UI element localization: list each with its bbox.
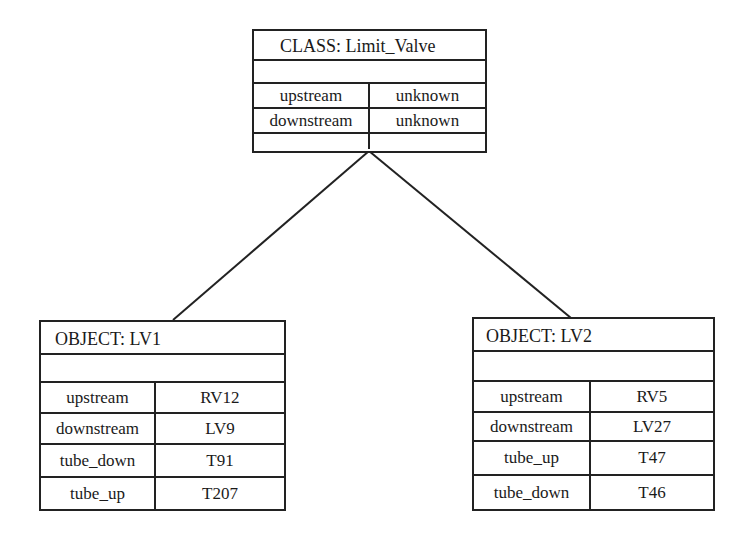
- object-title: OBJECT: LV1: [41, 322, 284, 355]
- slot-name: tube_down: [41, 444, 155, 477]
- slot-name: tube_down: [474, 475, 590, 509]
- slot-value: unknown: [369, 108, 485, 133]
- slot-name: upstream: [41, 383, 155, 413]
- object-slots-table: upstream RV12 downstream LV9 tube_down T…: [41, 383, 284, 509]
- object-title: OBJECT: LV2: [474, 319, 713, 352]
- slot-value: T91: [155, 444, 284, 477]
- link-class-to-lv2: [369, 151, 571, 318]
- slot-name: tube_up: [41, 477, 155, 509]
- table-row: upstream unknown: [254, 84, 485, 108]
- table-row: [254, 133, 485, 149]
- slot-value: T207: [155, 477, 284, 509]
- object-slots-table: upstream RV5 downstream LV27 tube_up T47…: [474, 382, 713, 509]
- slot-value: T47: [590, 441, 713, 475]
- slot-name: [254, 133, 369, 149]
- table-row: tube_up T47: [474, 441, 713, 475]
- slot-name: upstream: [474, 382, 590, 412]
- object-box-lv2: OBJECT: LV2 upstream RV5 downstream LV27…: [472, 317, 715, 511]
- table-row: upstream RV12: [41, 383, 284, 413]
- class-box-limit-valve: CLASS: Limit_Valve upstream unknown down…: [252, 29, 487, 153]
- slot-name: tube_up: [474, 441, 590, 475]
- slot-value: RV12: [155, 383, 284, 413]
- slot-value: unknown: [369, 84, 485, 108]
- table-row: downstream LV27: [474, 412, 713, 441]
- slot-value: LV27: [590, 412, 713, 441]
- slot-name: downstream: [41, 413, 155, 444]
- table-row: tube_down T91: [41, 444, 284, 477]
- table-row: downstream unknown: [254, 108, 485, 133]
- slot-value: T46: [590, 475, 713, 509]
- object-box-lv1: OBJECT: LV1 upstream RV12 downstream LV9…: [39, 320, 286, 511]
- table-row: tube_up T207: [41, 477, 284, 509]
- class-title: CLASS: Limit_Valve: [254, 31, 485, 61]
- slot-value: LV9: [155, 413, 284, 444]
- slot-name: upstream: [254, 84, 369, 108]
- table-row: upstream RV5: [474, 382, 713, 412]
- slot-name: downstream: [254, 108, 369, 133]
- class-slots-table: upstream unknown downstream unknown: [254, 84, 485, 149]
- slot-name: downstream: [474, 412, 590, 441]
- table-row: downstream LV9: [41, 413, 284, 444]
- link-class-to-lv1: [173, 151, 369, 320]
- slot-value: RV5: [590, 382, 713, 412]
- object-blank-row: [41, 355, 284, 383]
- table-row: tube_down T46: [474, 475, 713, 509]
- class-blank-row: [254, 61, 485, 84]
- object-blank-row: [474, 352, 713, 382]
- slot-value: [369, 133, 485, 149]
